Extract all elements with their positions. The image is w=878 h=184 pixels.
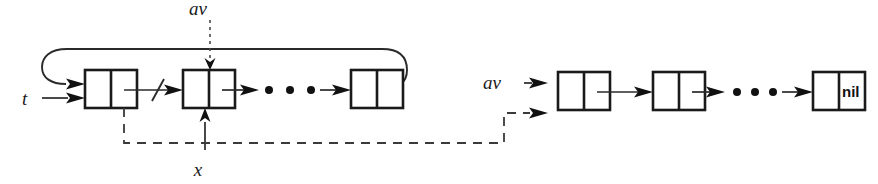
diagram-canvas: t av x (0, 0, 878, 184)
right-ellipsis-dot-1 (733, 88, 741, 96)
label-t: t (22, 88, 28, 109)
loop-arrowhead (66, 79, 85, 90)
linked-list-figure: t av x (0, 0, 878, 184)
t-arrowhead (66, 93, 85, 104)
left-ellipsis-dot-3 (307, 86, 315, 94)
dashed-reassignment-path (124, 108, 530, 143)
label-av-top: av (189, 0, 208, 19)
av-top-arrowhead (205, 58, 216, 70)
x-arrowhead (200, 108, 211, 122)
dashed-path-arrowhead (529, 108, 548, 119)
label-x: x (193, 159, 203, 180)
label-av-right: av (483, 72, 502, 93)
right-ellipsis-dot-2 (751, 88, 759, 96)
label-nil: nil (842, 83, 860, 100)
left-ellipsis-dot-2 (286, 86, 294, 94)
right-ellipsis-dot-3 (769, 88, 777, 96)
left-ellipsis-dot-1 (265, 86, 273, 94)
